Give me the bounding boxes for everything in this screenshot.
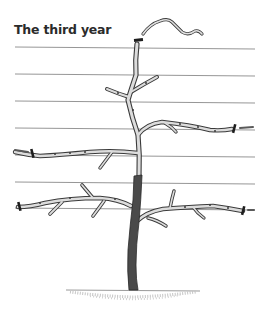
ground (66, 290, 200, 299)
branches-outline (15, 44, 243, 226)
branches-fill (15, 44, 243, 226)
leader-cut-mark (134, 38, 143, 42)
pruned-leader-shoot (143, 20, 202, 34)
wire-3 (15, 101, 255, 103)
espalier-tree-illustration (0, 0, 267, 317)
trunk (128, 175, 142, 290)
tier-1-left-arm (18, 198, 131, 207)
